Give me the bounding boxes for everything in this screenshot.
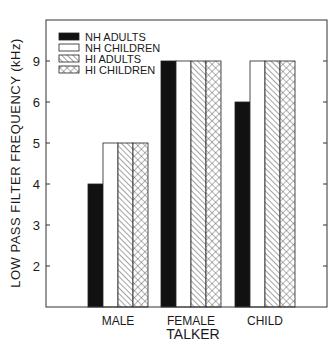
bar-hi-adults-male xyxy=(118,143,133,307)
bar-nh-adults-child xyxy=(235,102,250,307)
bar-nh-children-male xyxy=(103,143,118,307)
bar-hi-adults-female xyxy=(191,61,206,307)
bar-nh-children-female xyxy=(176,61,191,307)
bar-nh-adults-male xyxy=(88,184,103,307)
bar-hi-children-female xyxy=(206,61,221,307)
bars-layer xyxy=(88,61,295,307)
bar-hi-children-male xyxy=(133,143,148,307)
y-tick-label: 6 xyxy=(33,95,40,110)
x-axis-label: TALKER xyxy=(166,326,219,342)
bar-hi-children-child xyxy=(280,61,295,307)
y-tick-label: 2 xyxy=(33,259,40,274)
legend-swatch xyxy=(59,44,79,51)
y-tick-label: 5 xyxy=(33,136,40,151)
y-tick-label: 9 xyxy=(33,54,40,69)
y-tick-label: 3 xyxy=(33,218,40,233)
legend-swatch xyxy=(59,55,79,62)
y-axis-label: LOW PASS FILTER FREQUENCY (kHz) xyxy=(8,38,23,288)
x-tick-label: CHILD xyxy=(247,314,283,328)
bar-nh-children-child xyxy=(250,61,265,307)
bar-nh-adults-female xyxy=(161,61,176,307)
bar-chart: 234569 MALEFEMALECHILD LOW PASS FILTER F… xyxy=(0,0,335,346)
bar-hi-adults-child xyxy=(265,61,280,307)
legend-swatch xyxy=(59,66,79,73)
legend-label: HI CHILDREN xyxy=(85,64,155,76)
legend-swatch xyxy=(59,33,79,40)
x-tick-label: MALE xyxy=(102,314,135,328)
y-tick-label: 4 xyxy=(33,177,40,192)
legend: NH ADULTSNH CHILDRENHI ADULTSHI CHILDREN xyxy=(59,31,160,76)
